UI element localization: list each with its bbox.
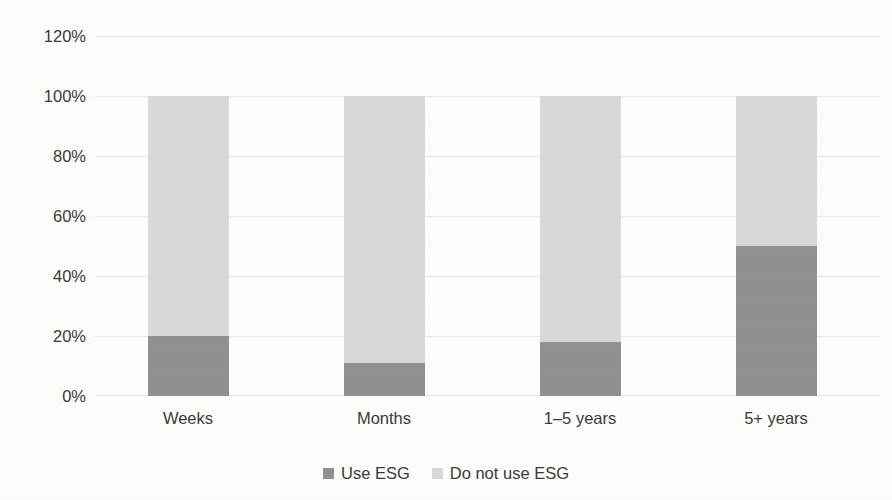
- x-axis-tick-weeks: Weeks: [88, 410, 288, 427]
- plot-area: [95, 36, 880, 396]
- bar-segment-do-not-use-esg[interactable]: [736, 96, 817, 246]
- y-axis-tick-80: 80%: [24, 148, 86, 165]
- bar-segment-do-not-use-esg[interactable]: [148, 96, 229, 336]
- bar-segment-do-not-use-esg[interactable]: [344, 96, 425, 363]
- x-axis-tick-5-plus-years: 5+ years: [676, 410, 876, 427]
- bar-segment-use-esg[interactable]: [148, 336, 229, 396]
- legend-swatch-icon: [432, 468, 443, 479]
- legend-item-do-not-use-esg[interactable]: Do not use ESG: [432, 465, 569, 482]
- bar-segment-do-not-use-esg[interactable]: [540, 96, 621, 342]
- legend-label: Do not use ESG: [450, 465, 569, 482]
- legend-item-use-esg[interactable]: Use ESG: [323, 465, 410, 482]
- y-axis-tick-100: 100%: [24, 88, 86, 105]
- legend-label: Use ESG: [341, 465, 410, 482]
- y-axis-tick-60: 60%: [24, 208, 86, 225]
- y-axis-tick-20: 20%: [24, 328, 86, 345]
- y-axis-tick-40: 40%: [24, 268, 86, 285]
- gridline-120: [95, 36, 880, 37]
- y-axis-tick-120: 120%: [24, 28, 86, 45]
- stacked-bar-chart: 120% 100% 80% 60% 40% 20% 0%: [0, 0, 892, 500]
- chart-legend: Use ESG Do not use ESG: [0, 465, 892, 482]
- bar-segment-use-esg[interactable]: [540, 342, 621, 396]
- y-axis: 120% 100% 80% 60% 40% 20% 0%: [12, 0, 86, 500]
- bar-segment-use-esg[interactable]: [344, 363, 425, 396]
- bar-segment-use-esg[interactable]: [736, 246, 817, 396]
- x-axis-tick-1-5-years: 1–5 years: [480, 410, 680, 427]
- x-axis-tick-months: Months: [284, 410, 484, 427]
- legend-swatch-icon: [323, 468, 334, 479]
- y-axis-tick-0: 0%: [24, 388, 86, 405]
